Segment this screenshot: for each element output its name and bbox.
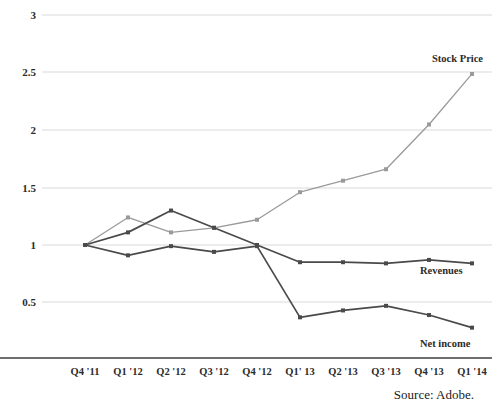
data-point	[470, 261, 474, 265]
series-line	[85, 245, 472, 328]
x-axis-tick-q4-13: Q4 '13	[414, 366, 443, 377]
series-revenues	[83, 209, 474, 266]
data-point	[470, 72, 474, 76]
data-point	[126, 230, 130, 234]
y-axis-tick-1: 1	[31, 239, 37, 251]
data-point	[427, 258, 431, 262]
y-axis-tick-1-5: 1.5	[22, 182, 36, 194]
x-axis-tick-q1-12: Q1 '12	[113, 366, 142, 377]
data-point	[470, 326, 474, 330]
x-axis-tick-q3-13: Q3 '13	[371, 366, 400, 377]
y-axis-tick-2: 2	[31, 124, 37, 136]
data-point	[341, 179, 345, 183]
data-point	[255, 218, 259, 222]
net-income-label: Net income	[420, 338, 471, 349]
data-point	[169, 230, 173, 234]
data-point	[384, 167, 388, 171]
data-point	[427, 122, 431, 126]
x-axis-tick-q4-11: Q4 '11	[71, 366, 100, 377]
series-layer	[83, 72, 474, 330]
data-point	[341, 308, 345, 312]
x-axis-tick-q3-12: Q3 '12	[199, 366, 228, 377]
data-point	[169, 209, 173, 213]
data-point	[83, 243, 87, 247]
x-axis-tick-q4-12: Q4 '12	[242, 366, 271, 377]
data-point	[255, 244, 259, 248]
stock-price-label: Stock Price	[432, 53, 483, 64]
revenues-label: Revenues	[420, 265, 463, 276]
data-point	[212, 250, 216, 254]
data-point	[341, 260, 345, 264]
x-axis-tick-q2-13: Q2 '13	[328, 366, 357, 377]
x-axis-tick-q1-14: Q1 '14	[457, 366, 487, 377]
data-point	[298, 190, 302, 194]
data-point	[384, 261, 388, 265]
line-chart: 3 2.5 2 1.5 1 0.5 Q4 '11 Q1 '12 Q2 '12 Q…	[0, 0, 504, 415]
x-axis-tick-q1-13: Q1' 13	[285, 366, 314, 377]
y-axis-tick-0-5: 0.5	[22, 296, 36, 308]
source-caption: Source: Adobe.	[394, 387, 474, 402]
gridlines	[42, 15, 492, 302]
series-stock-price	[83, 72, 474, 247]
data-point	[169, 244, 173, 248]
series-net-income	[83, 243, 474, 330]
x-axis-tick-q2-12: Q2 '12	[156, 366, 185, 377]
data-point	[126, 253, 130, 257]
data-point	[298, 260, 302, 264]
series-line	[85, 211, 472, 264]
series-line	[85, 74, 472, 245]
data-point	[427, 313, 431, 317]
data-point	[126, 215, 130, 219]
y-axis-tick-2-5: 2.5	[22, 66, 36, 78]
data-point	[212, 226, 216, 230]
chart-canvas: 3 2.5 2 1.5 1 0.5 Q4 '11 Q1 '12 Q2 '12 Q…	[0, 0, 504, 415]
data-point	[384, 304, 388, 308]
y-axis-tick-3: 3	[31, 9, 37, 21]
data-point	[298, 315, 302, 319]
